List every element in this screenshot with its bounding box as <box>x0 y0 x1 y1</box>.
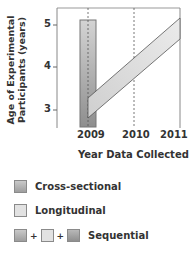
cross-sectional-swatch-icon <box>14 180 27 193</box>
x-tick-2010: 2010 <box>122 129 150 140</box>
cross-sectional-swatch-icon <box>14 229 27 242</box>
legend-sequential: + + Sequential <box>14 229 149 242</box>
legend-cross-sectional: Cross-sectional <box>14 180 121 193</box>
longitudinal-swatch-icon <box>41 229 54 242</box>
x-tick-2009: 2009 <box>77 129 105 140</box>
legend-label: Cross-sectional <box>35 181 121 192</box>
chart-plot <box>0 0 191 130</box>
plus-sign: + <box>57 231 65 241</box>
legend-longitudinal: Longitudinal <box>14 204 106 217</box>
legend-label: Longitudinal <box>35 205 106 216</box>
plus-sign: + <box>30 231 38 241</box>
x-tick-2011: 2011 <box>160 129 188 140</box>
sequential-swatch-icon <box>67 229 80 242</box>
legend-label: Sequential <box>88 230 149 241</box>
x-axis-label: Year Data Collected <box>78 149 189 160</box>
longitudinal-swatch-icon <box>14 204 27 217</box>
